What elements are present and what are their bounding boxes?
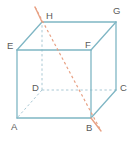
vertex-label-c: C bbox=[120, 82, 127, 93]
edge-E-H bbox=[17, 22, 42, 50]
vertex-label-b: B bbox=[86, 122, 92, 133]
vertex-labels-group: ABCDEFGH bbox=[7, 5, 127, 133]
hidden-edges-group bbox=[17, 22, 116, 118]
vertex-label-d: D bbox=[32, 82, 39, 93]
cube-diagram-figure: ABCDEFGH bbox=[0, 0, 133, 143]
diagonal-line-H-B-cap-end bbox=[91, 118, 101, 131]
edge-D-A bbox=[17, 90, 42, 118]
edge-F-G bbox=[91, 22, 116, 50]
cube-diagram-svg: ABCDEFGH bbox=[0, 0, 133, 143]
diagonal-line-H-B-cap-start bbox=[35, 7, 42, 22]
vertex-label-g: G bbox=[113, 5, 120, 16]
vertex-label-h: H bbox=[46, 10, 53, 21]
solid-edges-group bbox=[17, 22, 116, 118]
vertex-label-f: F bbox=[85, 39, 91, 50]
vertex-label-e: E bbox=[7, 40, 13, 51]
edge-B-C bbox=[91, 90, 116, 118]
vertex-label-a: A bbox=[11, 121, 18, 132]
